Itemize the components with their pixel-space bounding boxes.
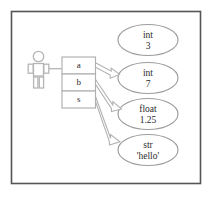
object-float-125-type: float [139,104,157,114]
object-int-3-type: int [143,30,153,40]
object-str-hello-type: str [143,140,153,150]
object-int-7-value: 7 [146,79,151,89]
object-float-125-value: 1.25 [140,115,157,125]
variable-slot-a-label: a [77,60,81,70]
variable-slot-s-label: s [77,94,81,104]
object-int-7-type: int [143,68,153,78]
diagram-canvas: a b s int 3 int 7 float 1.25 str 'hello' [0,0,212,199]
variable-slot-b-label: b [76,77,81,87]
object-int-3-value: 3 [146,41,151,51]
diagram-root: a b s int 3 int 7 float 1.25 str 'hello' [0,0,212,199]
object-str-hello-value: 'hello' [137,151,160,161]
